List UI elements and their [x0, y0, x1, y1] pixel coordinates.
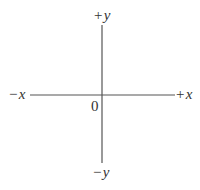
negative-x-label: − x: [9, 87, 25, 102]
positive-y-label: + y: [94, 8, 110, 23]
sign: +: [94, 7, 102, 23]
origin-label: 0: [91, 99, 99, 114]
variable: y: [104, 7, 111, 23]
sign: −: [93, 164, 101, 180]
variable: y: [103, 164, 110, 180]
sign: −: [9, 86, 17, 102]
axes-lines: [0, 0, 200, 190]
positive-x-label: + x: [176, 87, 192, 102]
negative-y-label: − y: [93, 165, 109, 180]
variable: x: [19, 86, 26, 102]
sign: +: [176, 86, 184, 102]
variable: x: [186, 86, 193, 102]
coordinate-axes-diagram: + y − y − x + x 0: [0, 0, 200, 190]
